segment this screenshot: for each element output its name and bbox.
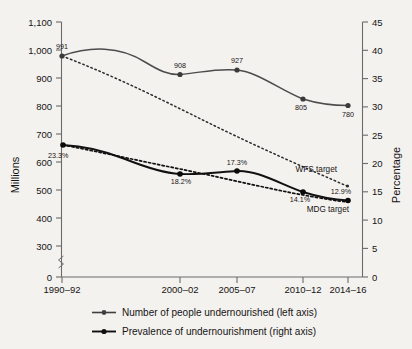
right-tick-label: 40 bbox=[372, 45, 383, 56]
data-label: 991 bbox=[56, 42, 68, 51]
legend-label: Number of people undernourished (left ax… bbox=[122, 307, 317, 318]
data-point bbox=[345, 198, 351, 204]
right-tick-label: 35 bbox=[372, 73, 383, 84]
right-axis-title: Percentage bbox=[390, 147, 402, 203]
x-category-label: 2010–12 bbox=[285, 284, 322, 295]
right-tick-label: 10 bbox=[372, 215, 383, 226]
left-tick-label: 300 bbox=[36, 241, 52, 252]
x-category-label: 2005–07 bbox=[219, 284, 256, 295]
data-point bbox=[234, 168, 240, 174]
legend-marker-dot bbox=[101, 329, 106, 334]
x-category-label: 2000–02 bbox=[162, 284, 199, 295]
left-tick-label: 400 bbox=[36, 213, 52, 224]
legend-item-number[interactable]: Number of people undernourished (left ax… bbox=[92, 307, 317, 318]
x-category-label: 2014–16 bbox=[330, 284, 367, 295]
right-tick-label: 5 bbox=[372, 243, 377, 254]
data-label: 14.1% bbox=[290, 195, 311, 204]
data-label: 23.3% bbox=[48, 151, 69, 160]
left-tick-label: 500 bbox=[36, 185, 52, 196]
left-tick-label: 700 bbox=[36, 129, 52, 140]
right-tick-label: 30 bbox=[372, 101, 383, 112]
data-point bbox=[177, 72, 182, 77]
legend-marker-dot bbox=[102, 310, 107, 315]
data-label: 927 bbox=[231, 56, 243, 65]
left-tick-label: 800 bbox=[36, 101, 52, 112]
data-label: 805 bbox=[295, 103, 307, 112]
left-tick-label: 1,100 bbox=[28, 17, 52, 28]
data-label: 908 bbox=[174, 61, 186, 70]
right-tick-label: 0 bbox=[372, 272, 377, 283]
wfs-target-label: WFS target bbox=[296, 165, 338, 174]
legend-item-prevalence[interactable]: Prevalence of undernourishment (right ax… bbox=[92, 326, 316, 337]
data-point bbox=[300, 96, 305, 101]
data-label: 12.9% bbox=[331, 187, 352, 196]
mdg-target-label: MDG target bbox=[307, 205, 350, 214]
left-axis-title: Millions bbox=[9, 156, 21, 193]
left-tick-label: 1,000 bbox=[28, 45, 52, 56]
data-point bbox=[60, 142, 66, 148]
data-label: 17.3% bbox=[227, 158, 248, 167]
data-point bbox=[345, 103, 350, 108]
left-tick-label: 900 bbox=[36, 73, 52, 84]
legend-label: Prevalence of undernourishment (right ax… bbox=[122, 326, 316, 337]
chart-figure: 1,100 1,000 900 800 700 600 500 400 300 … bbox=[0, 0, 412, 349]
right-tick-label: 15 bbox=[372, 186, 383, 197]
data-point bbox=[300, 189, 306, 195]
data-point bbox=[234, 67, 239, 72]
right-tick-label: 25 bbox=[372, 130, 383, 141]
x-category-label: 1990–92 bbox=[44, 284, 81, 295]
data-point bbox=[59, 53, 64, 58]
right-tick-label: 45 bbox=[372, 17, 383, 28]
data-label: 780 bbox=[342, 110, 354, 119]
chart-svg: 1,100 1,000 900 800 700 600 500 400 300 … bbox=[0, 0, 412, 349]
right-tick-label: 20 bbox=[372, 158, 383, 169]
left-tick-label: 0 bbox=[47, 272, 52, 283]
data-label: 18.2% bbox=[171, 177, 192, 186]
data-point bbox=[177, 171, 183, 177]
